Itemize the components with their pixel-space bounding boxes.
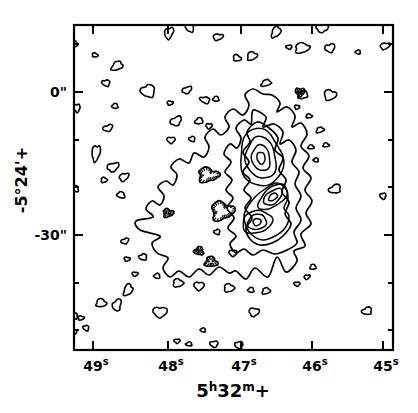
x-tick-label: 45s [373,356,398,374]
noise-contour-blob [107,163,119,172]
noise-contour-blob [234,54,242,61]
noise-contour-blob [248,52,258,61]
noise-contour-blob [101,177,107,182]
noise-contour-blob [185,21,193,32]
noise-contour-blob [78,316,84,320]
noise-contour-blob [102,80,110,87]
noise-contour-blob [380,193,386,199]
negative-ticked-contour [204,256,218,266]
noise-contour-blob [92,53,98,57]
noise-contour-blob [182,86,192,94]
noise-contour-blob [194,282,204,291]
noise-contour-blob [111,103,118,108]
figure-page: 49s48s47s46s45s0"-30"5h32m+-5°24'+ [0,0,418,413]
noise-contour-blob [308,145,315,149]
noise-contour-blob [92,146,100,163]
noise-contour-blob [165,27,174,40]
x-axis-title: 5h32m+ [196,380,270,401]
noise-contour-blob [140,84,155,97]
noise-contour-blob [119,173,129,182]
y-tick-label: -30" [34,227,67,243]
noise-contour-blob [262,288,270,295]
peak-contour-ring [251,145,270,171]
x-tick-label: 46s [302,356,327,374]
negative-ticked-contour [163,208,174,217]
noise-contour-blob [214,229,220,234]
noise-contour-blob [194,118,202,124]
x-tick-label: 47s [231,356,256,374]
noise-contour-blob [313,158,319,162]
noise-contour-blob [199,97,210,104]
noise-contour-blob [111,61,123,70]
noise-contour-blob [224,283,235,292]
noise-contour-blob [328,184,340,193]
noise-contour-blob [83,325,89,331]
noise-contour-blob [295,42,310,53]
negative-ticked-contour [295,88,304,97]
noise-contour-blob [213,34,223,41]
noise-contour-blob [167,137,175,144]
y-axis-title: -5°24'+ [12,147,31,213]
y-tick-label: 0" [50,84,67,100]
axis-labels: 49s48s47s46s45s0"-30"5h32m+-5°24'+ [12,84,399,401]
noise-contour-blob [213,96,220,101]
negative-ticked-contour [193,246,204,254]
peak-contour-ring [253,219,261,226]
negative-ticked-contour [212,201,236,222]
inner-ridge-contour [243,122,291,245]
contour-map: 49s48s47s46s45s0"-30"5h32m+-5°24'+ [0,0,418,413]
x-tick-label: 49s [83,356,108,374]
noise-contour-blob [294,282,300,287]
noise-contour-blob [324,90,336,101]
noise-contour-blob [355,50,360,54]
noise-contour-blob [271,26,281,39]
peak-contour-ring [257,153,265,165]
noise-contour-blob [304,275,310,280]
noise-contour-blob [170,116,181,126]
noise-contour-blob [185,342,192,346]
ridge-contour [224,110,301,255]
noise-contour-blob [189,136,195,141]
negative-ticked-contour [199,167,221,183]
noise-contour-blob [286,45,292,49]
noise-contour-blob [361,307,371,315]
noise-contour-blob [116,192,125,199]
noise-contour-blob [206,123,212,129]
noise-contour-blob [173,278,184,287]
x-tick-label: 48s [158,356,183,374]
peak-contour-ring [269,193,278,201]
noise-contour-blob [167,101,173,105]
noise-contour-blob [316,127,324,133]
contour-artwork [72,21,391,348]
noise-contour-blob [112,299,121,311]
noise-contour-blob [261,79,272,86]
noise-contour-blob [153,273,160,278]
noise-contour-blob [103,124,113,131]
noise-contour-blob [174,339,180,343]
noise-contour-blob [153,307,167,318]
noise-contour-blob [210,341,218,348]
noise-contour-blob [123,284,133,296]
noise-contour-blob [96,299,107,307]
noise-contour-blob [295,105,300,109]
noise-contour-blob [306,114,313,118]
noise-contour-blob [310,264,317,269]
noise-contour-blob [323,143,330,147]
noise-contour-blob [124,257,130,261]
noise-contour-blob [325,44,335,53]
noise-contour-blob [249,308,259,317]
noise-contour-blob [138,254,146,261]
noise-contour-blob [200,328,205,332]
noise-contour-blob [132,272,138,276]
noise-contour-blob [247,287,254,292]
noise-contour-blob [121,238,129,244]
